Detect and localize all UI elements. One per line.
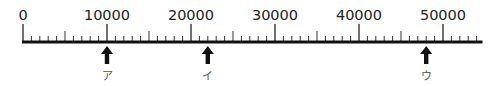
tick-label: 30000 — [252, 7, 298, 23]
tick-labels: 01000020000300004000050000 — [18, 7, 466, 23]
up-arrow-icon — [202, 46, 214, 64]
number-line-diagram: 01000020000300004000050000 アイウ — [0, 0, 504, 86]
up-arrow-icon — [420, 46, 432, 64]
marker-arrow-1: ア — [101, 46, 113, 83]
up-arrow-icon — [101, 46, 113, 64]
arrow-markers: アイウ — [101, 46, 432, 83]
marker-label: ア — [102, 70, 113, 83]
tick-label: 0 — [18, 7, 27, 23]
tick-label: 20000 — [168, 7, 214, 23]
tick-label: 40000 — [336, 7, 382, 23]
marker-arrow-2: イ — [202, 46, 214, 83]
tick-label: 10000 — [84, 7, 130, 23]
tick-marks — [23, 24, 477, 42]
marker-label: イ — [202, 70, 213, 83]
marker-label: ウ — [421, 70, 432, 83]
tick-label: 50000 — [420, 7, 466, 23]
marker-arrow-3: ウ — [420, 46, 432, 83]
